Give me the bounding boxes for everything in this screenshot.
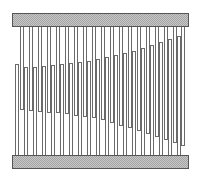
bottom-finger xyxy=(78,62,82,155)
bottom-finger xyxy=(150,45,154,155)
top-plate xyxy=(12,13,189,27)
bottom-finger xyxy=(69,63,73,155)
bottom-finger xyxy=(105,57,109,155)
bottom-finger xyxy=(114,55,118,155)
bottom-finger xyxy=(42,66,46,155)
bottom-plate xyxy=(12,155,189,169)
bottom-finger xyxy=(96,59,100,155)
bottom-finger xyxy=(168,39,172,155)
top-finger xyxy=(181,27,185,146)
bottom-finger xyxy=(33,67,37,155)
bottom-finger xyxy=(15,64,19,155)
bottom-finger xyxy=(51,65,55,155)
bottom-finger xyxy=(159,42,163,155)
bottom-finger xyxy=(87,61,91,155)
bottom-finger xyxy=(24,67,28,155)
comb-diagram xyxy=(0,0,200,182)
bottom-finger xyxy=(141,48,145,155)
bottom-finger xyxy=(177,36,181,155)
bottom-finger xyxy=(132,51,136,155)
bottom-finger xyxy=(60,64,64,155)
bottom-finger xyxy=(123,53,127,155)
